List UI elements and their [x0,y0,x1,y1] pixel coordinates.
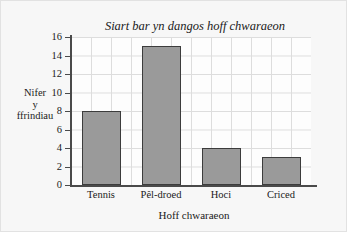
plot-area [71,37,311,185]
y-tick-mark [65,93,71,94]
bar-hoci [202,148,241,185]
y-tick-label-text: 14 [41,51,62,61]
y-tick-label-text: 8 [41,106,62,116]
y-tick-label: 8 [41,106,62,116]
y-tick-mark [65,185,71,186]
x-tick-label: Criced [236,189,326,200]
y-tick-label-text: 6 [41,125,62,135]
bar-tennis [82,111,121,185]
y-tick-label-text: 10 [41,88,62,98]
y-tick-mark [65,111,71,112]
y-tick-label: 6 [41,125,62,135]
y-tick-mark [65,167,71,168]
y-tick-label-text: 4 [41,143,62,153]
y-tick-label-text: 12 [41,69,62,79]
chart-title: Siart bar yn dangos hoff chwaraeon [79,19,311,33]
y-tick-mark [65,130,71,131]
x-axis-title: Hoff chwaraeon [71,209,317,221]
y-tick-mark [65,37,71,38]
bar-p-l-droed [142,46,181,185]
bar-chart-figure: Siart bar yn dangos hoff chwaraeon Nifer… [0,0,347,232]
y-tick-label: 12 [41,69,62,79]
bar-criced [262,157,301,185]
y-tick-label: 16 [41,32,62,42]
y-tick-mark [65,56,71,57]
y-tick-label-text: 16 [41,32,62,42]
y-tick-label-text: 2 [41,162,62,172]
y-tick-label: 14 [41,51,62,61]
x-axis-line [70,185,317,187]
y-tick-mark [65,148,71,149]
y-tick-label: 10 [41,88,62,98]
y-tick-mark [65,74,71,75]
y-tick-label: 4 [41,143,62,153]
y-tick-label: 2 [41,162,62,172]
